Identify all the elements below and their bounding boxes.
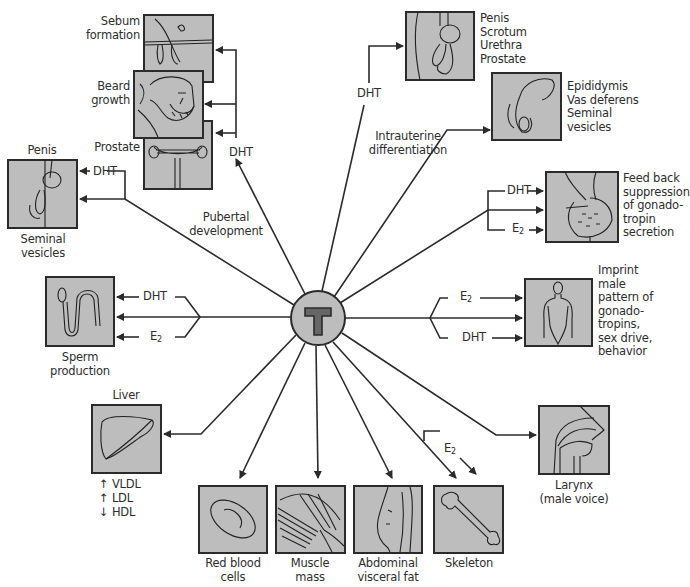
label-e2-feedback: E2 (512, 222, 524, 239)
label-skeleton: Skeleton (432, 557, 506, 571)
label-seminal-vesicles-left: Seminal vesicles (5, 233, 81, 260)
label-external-genitalia: Penis Scrotum Urethra Prostate (480, 12, 527, 66)
skeleton-panel (434, 486, 503, 553)
label-dht-feedback: DHT (507, 184, 531, 198)
label-penis-left: Penis (12, 144, 72, 158)
muscle-panel (276, 486, 345, 553)
liver-panel (92, 405, 161, 473)
liver-effect-hdl: ↓ HDL (99, 506, 135, 520)
label-rbc: Red blood cells (193, 557, 273, 584)
label-e2-imprint: E2 (460, 290, 472, 307)
label-dht-intrauterine: DHT (357, 87, 381, 101)
testosterone-node (291, 291, 345, 345)
label-liver: Liver (100, 389, 152, 403)
label-sperm: Sperm production (38, 351, 122, 378)
label-e2-sperm: E2 (150, 330, 162, 347)
penis-seminal-panel (8, 160, 77, 228)
abdominal-panel (354, 486, 422, 553)
label-epididymis: Epididymis Vas deferens Seminal vesicles (567, 80, 639, 134)
label-abdominal: Abdominal visceral fat (346, 557, 430, 584)
label-dht-sperm: DHT (143, 290, 167, 304)
sperm-panel (46, 277, 114, 346)
epididymis-panel (492, 73, 561, 140)
label-dht-pubertal: DHT (229, 146, 253, 160)
label-muscle: Muscle mass (272, 557, 348, 584)
beard-panel (134, 71, 203, 138)
label-imprint: Imprint male pattern of gonado- tropins,… (598, 264, 653, 359)
genitalia-panel (406, 12, 474, 80)
label-larynx: Larynx (male voice) (528, 479, 620, 506)
label-feedback: Feed back suppression of gonado- tropin … (623, 172, 690, 240)
label-sebum: Sebum formation (60, 15, 140, 42)
rbc-panel (199, 486, 267, 553)
larynx-panel (539, 406, 609, 474)
label-beard: Beard growth (50, 80, 130, 107)
label-intrauterine: Intrauterine differentiation (356, 130, 460, 157)
label-dht-penis: DHT (93, 165, 117, 179)
imprint-panel (525, 279, 592, 346)
label-pubertal-development: Pubertal development (178, 211, 274, 238)
label-dht-imprint: DHT (462, 331, 486, 345)
feedback-panel (546, 172, 618, 242)
liver-effect-ldl: ↑ LDL (99, 492, 133, 506)
liver-effect-vldl: ↑ VLDL (99, 478, 141, 492)
label-e2-skeleton: E2 (444, 442, 456, 459)
label-prostate: Prostate (60, 141, 140, 155)
